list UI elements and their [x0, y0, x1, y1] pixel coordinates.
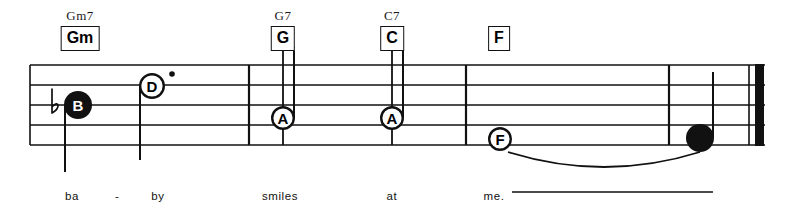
- tie-f-to-final: [508, 152, 700, 167]
- flat-before-b: [52, 89, 58, 113]
- chord-c-superscript: C7: [384, 8, 400, 24]
- lyric-smiles: smiles: [262, 190, 298, 202]
- chord-gm-superscript: Gm7: [66, 8, 94, 24]
- chord-g-superscript: G7: [275, 8, 292, 24]
- notehead-letter: D: [147, 78, 158, 95]
- chord-g-box[interactable]: G: [271, 26, 295, 51]
- note-final: [686, 124, 714, 152]
- notehead-letter: F: [495, 131, 504, 148]
- lyric-dash: -: [115, 190, 119, 202]
- notehead-letter: A: [387, 110, 398, 127]
- music-notation-sheet: BDAAFGm7GmG7GC7CFba-bysmilesatme.: [0, 0, 790, 208]
- lyric-ba: ba: [65, 190, 79, 202]
- note-f: F: [489, 128, 511, 150]
- lyric-at: at: [387, 190, 398, 202]
- chord-c-box[interactable]: C: [380, 26, 404, 51]
- flat-glyph: [52, 89, 58, 113]
- notehead-letter: B: [73, 97, 84, 114]
- augmentation-dot: [169, 71, 175, 77]
- lyric-me: me.: [484, 190, 505, 202]
- lyric-by: by: [151, 190, 164, 202]
- notehead-letter: A: [278, 110, 289, 127]
- notehead-filled: [686, 124, 714, 152]
- chord-f-box[interactable]: F: [488, 26, 510, 51]
- note-a-1: A: [272, 107, 294, 129]
- chord-gm-box[interactable]: Gm: [61, 26, 100, 51]
- final-barline-thick: [755, 64, 764, 146]
- note-a-2: A: [381, 107, 403, 129]
- note-b-flat: B: [64, 91, 92, 119]
